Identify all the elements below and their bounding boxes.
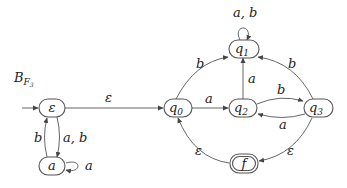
state-q0: q0	[164, 99, 192, 117]
edge-label: a, b	[63, 130, 87, 145]
state-a: a	[39, 157, 65, 175]
edge-label: ε	[105, 90, 112, 105]
state-eps: ε	[39, 99, 65, 117]
state-f-final: f	[230, 154, 258, 173]
edge-label: a	[279, 117, 287, 132]
edge-label: b	[277, 82, 285, 97]
svg-text:a: a	[48, 158, 56, 173]
edge-label: b	[288, 56, 296, 71]
edge-label: a, b	[233, 5, 257, 20]
state-q2: q2	[229, 99, 257, 117]
edge-label: a	[85, 158, 93, 173]
automaton-diagram: BF3 ε a, b b a b a a b a b a,	[0, 0, 347, 188]
edge-label: b	[34, 130, 42, 145]
state-q3: q3	[304, 99, 333, 117]
edge-q2-q3	[257, 98, 303, 104]
edge-label: b	[196, 56, 204, 71]
svg-text:ε: ε	[49, 100, 56, 115]
edge-label: ε	[287, 143, 294, 158]
edge-f-q0	[178, 118, 229, 163]
edge-a-eps	[45, 118, 48, 157]
edges: ε a, b b a b a a b a b a, b ε ε	[22, 5, 313, 173]
edge-q1-loop	[238, 28, 248, 40]
automaton-title: BF3	[13, 70, 34, 88]
edge-label: a	[205, 91, 213, 106]
edge-label: ε	[195, 143, 202, 158]
edge-a-loop	[66, 162, 78, 171]
edge-q3-q1	[258, 57, 313, 99]
edge-eps-a	[57, 117, 60, 157]
state-q1: q1	[229, 40, 259, 58]
edge-label: a	[248, 71, 256, 86]
